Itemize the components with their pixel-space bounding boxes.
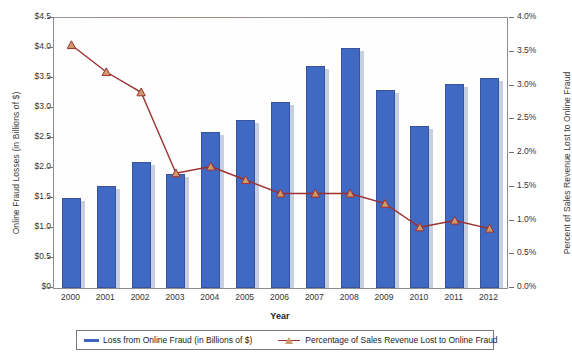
line-series-layer xyxy=(54,18,507,288)
legend-item-line: Percentage of Sales Revenue Lost to Onli… xyxy=(278,335,497,345)
line-marker-triangle xyxy=(241,176,249,184)
y-left-tick-label: $0.5 xyxy=(11,251,51,261)
y-left-tick-label: $4.0 xyxy=(11,41,51,51)
legend-line-label: Percentage of Sales Revenue Lost to Onli… xyxy=(305,335,497,345)
x-axis-title: Year xyxy=(45,311,515,321)
y-right-tick-mark xyxy=(509,253,514,254)
y-right-tick-mark xyxy=(509,118,514,119)
y-right-tick-mark xyxy=(509,287,514,288)
y-axis-right-title: Percent of Sales Revenue Lost to Online … xyxy=(562,68,572,258)
y-right-tick-label: 3.0% xyxy=(517,79,557,89)
y-right-tick-mark xyxy=(509,186,514,187)
y-right-tick-mark xyxy=(509,220,514,221)
chart-legend: Loss from Online Fraud (in Billions of $… xyxy=(76,330,494,350)
y-right-tick-label: 2.0% xyxy=(517,146,557,156)
y-right-tick-label: 0.5% xyxy=(517,247,557,257)
y-right-tick-mark xyxy=(509,17,514,18)
y-right-tick-label: 1.5% xyxy=(517,180,557,190)
y-left-tick-label: $1.0 xyxy=(11,221,51,231)
legend-item-bar: Loss from Online Fraud (in Billions of $… xyxy=(84,335,252,345)
y-right-tick-label: 0.0% xyxy=(517,281,557,291)
y-right-tick-label: 3.5% xyxy=(517,45,557,55)
y-right-tick-mark xyxy=(509,51,514,52)
y-left-tick-label: $2.5 xyxy=(11,131,51,141)
y-left-tick-label: $1.5 xyxy=(11,191,51,201)
legend-bar-label: Loss from Online Fraud (in Billions of $… xyxy=(103,335,252,345)
y-right-tick-mark xyxy=(509,152,514,153)
fraud-losses-chart: Online Fraud Losses (in Billions of $) P… xyxy=(0,0,572,364)
y-axis-left: $0$0.5$1.0$1.5$2.0$2.5$3.0$3.5$4.0$4.5 xyxy=(5,17,51,289)
percentage-line-path xyxy=(71,45,489,229)
y-right-tick-label: 4.0% xyxy=(517,11,557,21)
line-marker-triangle xyxy=(207,162,215,170)
line-marker-triangle xyxy=(67,41,75,49)
x-axis-tick-label: 2012 xyxy=(469,292,509,302)
legend-line-marker-icon xyxy=(278,336,300,345)
line-marker-triangle xyxy=(451,216,459,224)
legend-bar-swatch-icon xyxy=(84,339,99,342)
y-left-tick-label: $3.5 xyxy=(11,71,51,81)
y-right-tick-label: 1.0% xyxy=(517,214,557,224)
y-left-tick-label: $4.5 xyxy=(11,11,51,21)
y-left-tick-label: $2.0 xyxy=(11,161,51,171)
y-left-tick-label: $3.0 xyxy=(11,101,51,111)
y-axis-right: 0.0%0.5%1.0%1.5%2.0%2.5%3.0%3.5%4.0% xyxy=(509,17,555,289)
y-right-tick-mark xyxy=(509,85,514,86)
y-right-tick-label: 2.5% xyxy=(517,112,557,122)
y-left-tick-label: $0 xyxy=(11,281,51,291)
plot-area xyxy=(53,17,508,289)
line-marker-triangle xyxy=(137,88,145,96)
